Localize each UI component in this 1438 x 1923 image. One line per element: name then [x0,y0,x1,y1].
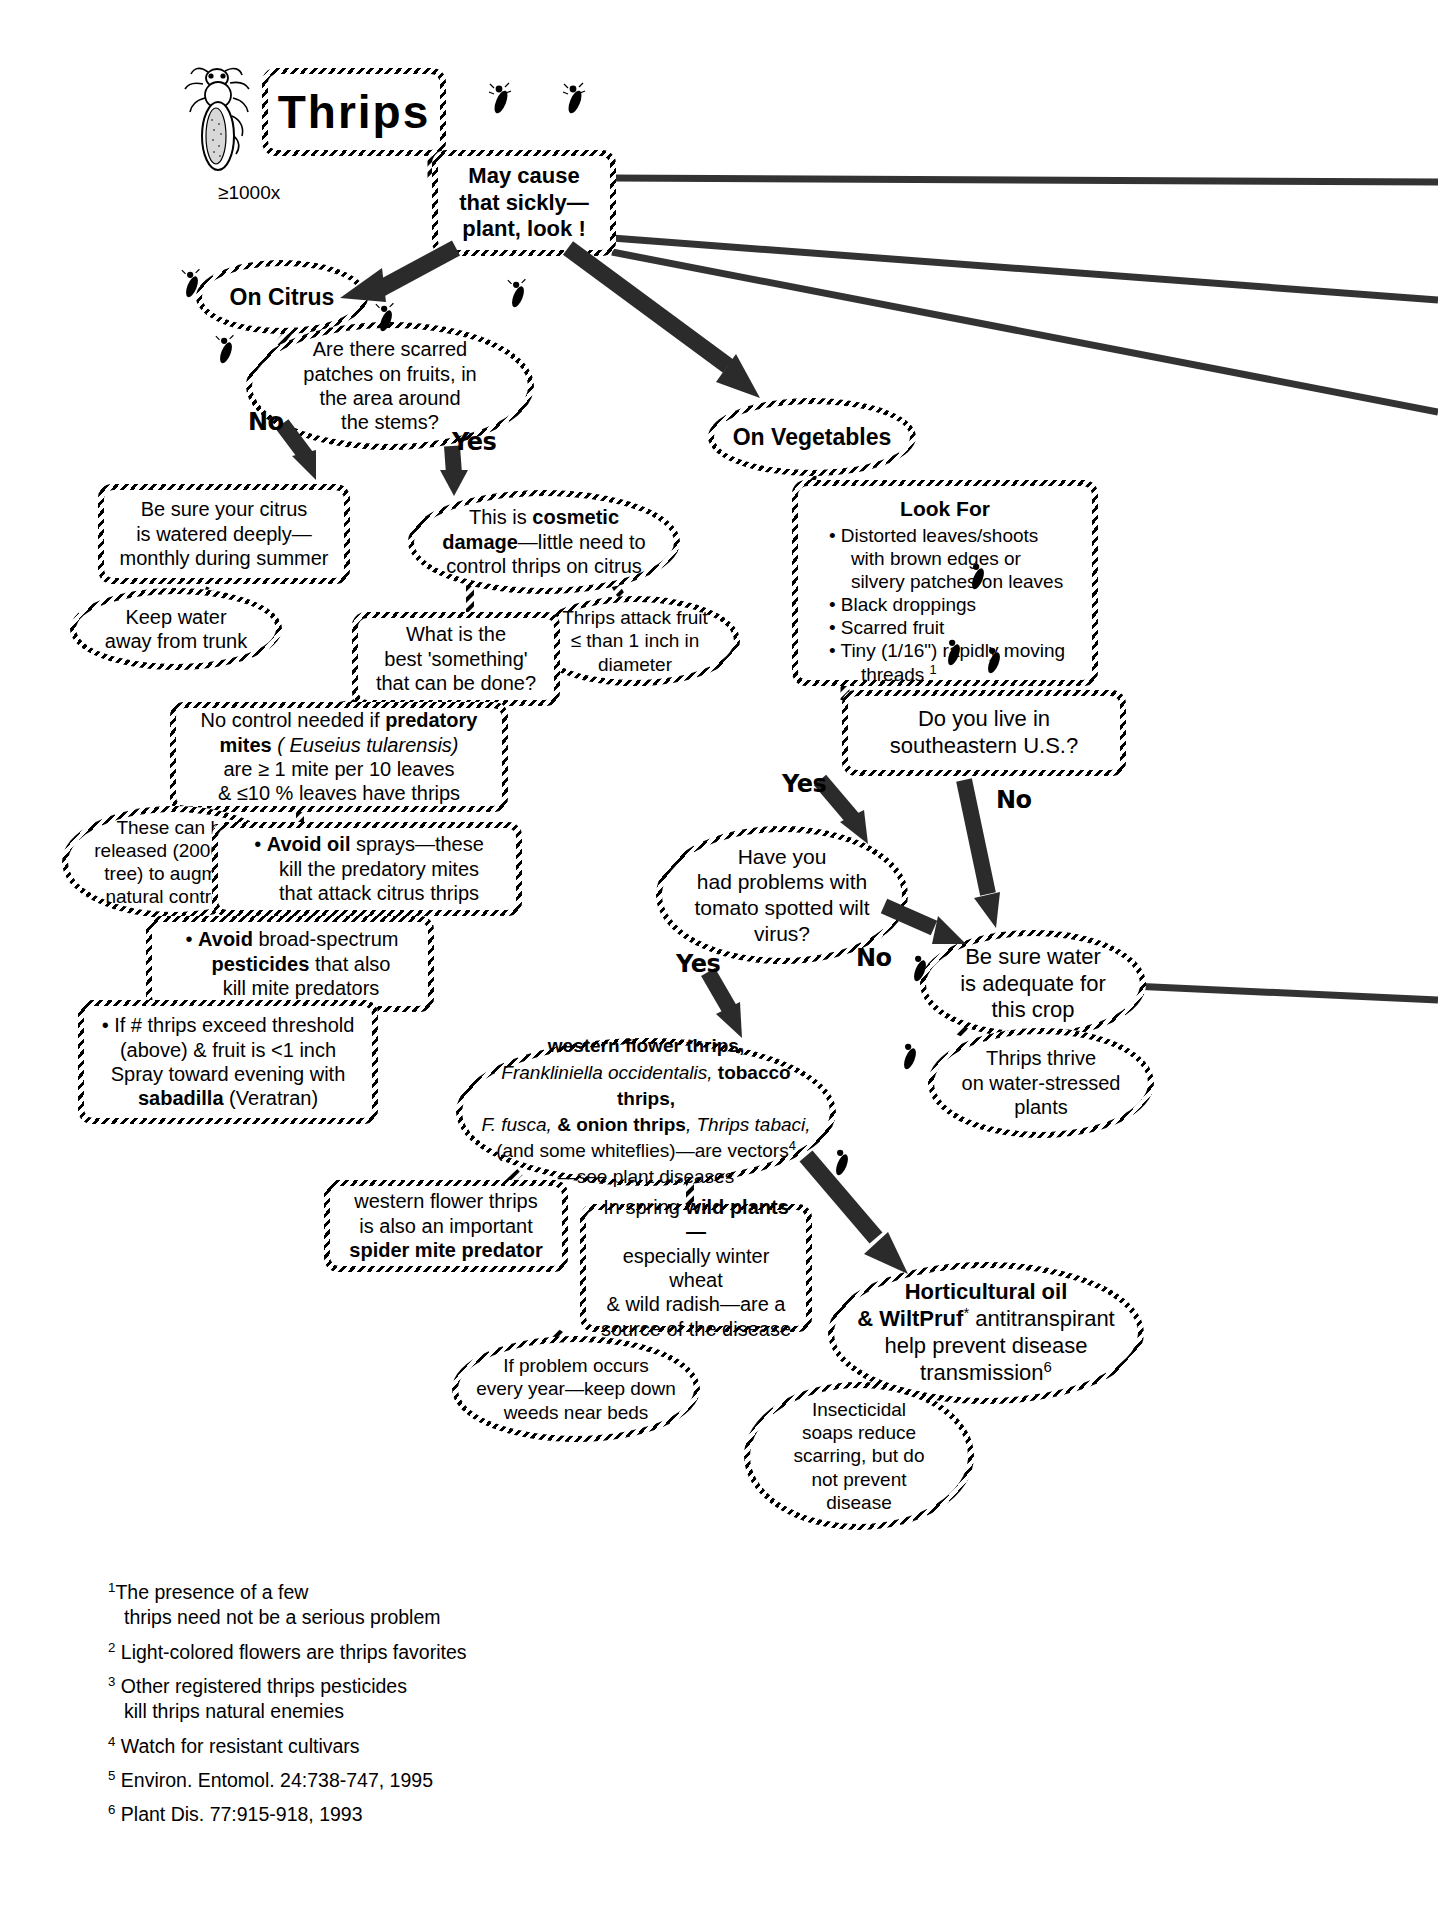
label-citrus-yes: Yes [452,428,496,456]
water-citrus-l3: monthly during summer [120,546,329,570]
se-q-l2: southeastern U.S.? [890,733,1078,760]
thrips-icon-small-6 [506,278,530,310]
thrips-icon-small-3 [180,268,204,300]
node-keep-water-away: Keep water away from trunk [70,588,282,670]
thrips-icon-small-4 [214,334,238,366]
ho-l3: help prevent disease [884,1333,1087,1360]
label-citrus-no: No [248,408,284,436]
sab-l3: Spray toward evening with [111,1062,346,1086]
on-citrus-label: On Citrus [230,283,335,311]
ho-l2: & WiltPruf* antitranspirant [857,1306,1114,1333]
water-citrus-l1: Be sure your citrus [141,497,308,521]
keep-water-l1: Keep water [125,605,226,629]
intro-line-1: May cause [468,163,579,190]
title-node: Thrips [262,68,446,156]
magnification-label: ≥1000x [218,182,280,204]
bsw-l1: Be sure water [965,944,1101,971]
node-avoid-broad-spectrum: • Avoid broad-spectrum pesticides that a… [146,916,434,1012]
thrips-icon-small-8 [942,636,966,668]
water-citrus-l2: is watered deeply— [136,522,312,546]
thrips-icon-small-10 [908,952,932,984]
oil-l3: that attack citrus thrips [259,881,479,905]
label-se-yes: Yes [782,770,826,798]
se-q-l1: Do you live in [918,706,1050,733]
pm-l1: No control needed if predatory [201,708,478,732]
node-water-citrus: Be sure your citrus is watered deeply— m… [98,484,350,584]
intro-line-2: that sickly— [459,190,589,217]
vec-l3: F. fusca, & onion thrips, Thrips tabaci, [481,1112,810,1138]
arrow-intro-to-citrus [330,240,460,310]
keep-water-l2: away from trunk [105,629,247,653]
node-best-something: What is the best 'something' that can be… [352,612,560,706]
sab-l2: (above) & fruit is <1 inch [120,1038,336,1062]
arrow-intro-to-vegetables [560,240,790,420]
thrips-icon-small-2 [562,82,588,116]
node-avoid-oil: • Avoid oil sprays—these kill the predat… [212,822,522,916]
node-weeds-near-beds: If problem occurs every year—keep down w… [452,1336,700,1442]
thrips-icon-small-9 [982,644,1006,676]
is-l1: Insecticidal [812,1398,906,1421]
footnote-2: 2 Light-colored flowers are thrips favor… [108,1640,528,1665]
footnote-5: 5 Environ. Entomol. 24:738-747, 1995 [108,1768,528,1793]
smp-l2: is also an important [359,1214,532,1238]
pm-l3: are ≥ 1 mite per 10 leaves [223,757,454,781]
arrow-tswv-no [880,900,970,956]
node-thrips-attack-fruit: Thrips attack fruit ≤ than 1 inch in dia… [530,596,740,686]
look-for-item-1: • Distorted leaves/shoots with brown edg… [825,524,1065,594]
wp-l1: In spring wild plants— [596,1195,796,1244]
footnotes: 1The presence of a fewthrips need not be… [108,1580,528,1837]
tswv-l4: virus? [754,921,810,947]
node-thrips-thrive: Thrips thrive on water-stressed plants [928,1028,1154,1138]
thrips-icon-small-11 [898,1040,922,1072]
label-tswv-no: No [856,944,892,972]
node-southeast-question: Do you live in southeastern U.S.? [842,690,1126,776]
is-l5: disease [826,1491,892,1514]
is-l2: soaps reduce [802,1421,916,1444]
tswv-l2: had problems with [697,869,867,895]
tt-l1: Thrips thrive [986,1046,1096,1070]
sab-l4: sabadilla (Veratran) [138,1086,318,1110]
thrips-illustration-large [178,62,263,172]
best-l3: that can be done? [376,671,536,695]
citrus-q-l3: the area around [319,386,460,410]
node-predatory-mites: No control needed if predatory mites ( E… [170,702,508,812]
footnote-3: 3 Other registered thrips pesticideskill… [108,1674,528,1725]
node-vectors: western flower thrips, Frankliniella occ… [456,1038,836,1186]
wd-l2: every year—keep down [476,1377,676,1400]
vec-l2: Frankliniella occidentalis, tobacco thri… [472,1060,820,1112]
node-wild-plants: In spring wild plants— especially winter… [580,1204,812,1332]
is-l3: scarring, but do [794,1444,925,1467]
oil-l2: kill the predatory mites [259,857,479,881]
cosmetic-l2: damage—little need to [442,530,645,554]
is-l4: not prevent [811,1468,906,1491]
smp-l3: spider mite predator [349,1238,542,1262]
look-for-item-2: • Black droppings [825,593,1065,616]
on-vegetables-label: On Vegetables [733,423,892,451]
oil-l1: • Avoid oil sprays—these [254,832,484,856]
citrus-q-l2: patches on fruits, in [303,362,476,386]
citrus-q-l4: the stems? [341,410,439,434]
best-l1: What is the [406,622,506,646]
arrow-citrus-no [276,420,336,488]
sab-l1: • If # thrips exceed threshold [102,1013,355,1037]
wd-l3: weeds near beds [504,1401,649,1424]
wp-l4: source of the disease [601,1317,791,1341]
tswv-l3: tomato spotted wilt [694,895,869,921]
vec-l4: (and some whiteflies)—are vectors4 [496,1138,796,1164]
attack-fruit-l3: diameter [598,653,672,676]
ho-l4: transmission6 [920,1360,1052,1387]
wd-l1: If problem occurs [503,1354,649,1377]
vec-l5: —see plant diseases [558,1164,734,1190]
tt-l2: on water-stressed [962,1071,1121,1095]
node-cosmetic-damage: This is cosmetic damage—little need to c… [408,490,680,594]
best-l2: best 'something' [384,647,527,671]
broad-l2: pesticides that also [194,952,391,976]
pm-l4: & ≤10 % leaves have thrips [218,781,460,805]
arrow-vectors-to-hort-oil [800,1152,936,1284]
cosmetic-l1: This is cosmetic [469,505,619,529]
thrips-decision-flowchart: ≥1000x Thrips May cause that sickly— pla… [0,0,1438,1923]
wp-l2: especially winter wheat [596,1244,796,1293]
bsw-l3: this crop [991,997,1074,1024]
citrus-q-l1: Are there scarred [313,337,468,361]
broad-l3: kill mite predators [205,976,380,1000]
